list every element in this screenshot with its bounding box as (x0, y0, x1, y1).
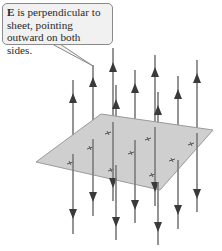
arrow-up-icon (174, 89, 182, 99)
arrow-down-icon (193, 189, 201, 199)
callout-box: E is perpendicular to sheet, pointing ou… (2, 3, 113, 45)
arrow-up-icon (151, 67, 159, 77)
arrow-up-icon (109, 62, 117, 72)
arrow-down-icon (69, 209, 77, 219)
arrow-down-icon (174, 205, 182, 215)
arrow-down-icon (131, 200, 139, 210)
arrow-up-icon (69, 93, 77, 103)
arrow-up-icon (193, 73, 201, 83)
arrow-up-icon (131, 83, 139, 93)
arrow-up-icon (89, 77, 97, 87)
arrow-down-icon (112, 217, 120, 227)
callout-tail (52, 44, 93, 66)
field-line-upper (193, 60, 201, 133)
charged-sheet (36, 114, 213, 190)
arrow-down-icon (89, 192, 97, 202)
arrow-down-icon (154, 222, 162, 232)
